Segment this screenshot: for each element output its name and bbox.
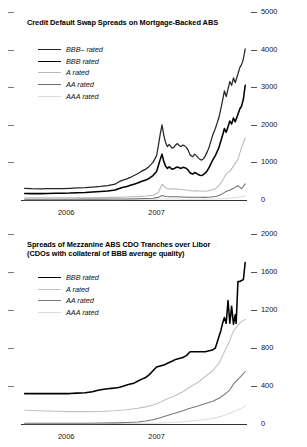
y-tick-label: 2000 — [261, 229, 277, 238]
y-tick-mark-left — [8, 348, 14, 349]
y-tick-label: 3000 — [261, 82, 277, 91]
y-tick-mark-left — [8, 12, 14, 13]
y-tick-label: 1200 — [261, 305, 277, 314]
plot-area-bottom — [21, 234, 247, 425]
y-tick-label: 4000 — [261, 45, 277, 54]
chart-panel-bottom: Spreads of Mezzanine ABS CDO Tranches ov… — [0, 224, 307, 447]
y-tick-label: 0 — [261, 195, 265, 204]
chart-panel-top: Credit Default Swap Spreads on Mortgage-… — [0, 0, 307, 224]
y-tick-mark-right — [251, 87, 257, 88]
series-line-bbbrated — [25, 263, 246, 394]
figure-credit-spreads-panels: Credit Default Swap Spreads on Mortgage-… — [0, 0, 307, 447]
y-tick-label: 800 — [261, 343, 273, 352]
y-tick-mark-right — [251, 12, 257, 13]
y-tick-label: 5000 — [261, 7, 277, 16]
series-line-aarated — [25, 372, 246, 423]
x-tick-label: 2006 — [46, 208, 86, 217]
x-tick-label: 2006 — [46, 432, 86, 441]
y-tick-label: 2000 — [261, 120, 277, 129]
y-tick-mark-left — [8, 310, 14, 311]
series-line-bbbrated — [25, 85, 246, 193]
y-tick-mark-right — [251, 348, 257, 349]
y-tick-label: 0 — [261, 419, 265, 428]
y-tick-mark-left — [8, 234, 14, 235]
y-tick-mark-left — [8, 386, 14, 387]
y-tick-mark-right — [251, 162, 257, 163]
y-tick-label: 1000 — [261, 157, 277, 166]
plot-area-top — [21, 12, 247, 201]
x-tick-label: 2007 — [137, 432, 177, 441]
x-tick-label: 2007 — [137, 208, 177, 217]
y-tick-mark-right — [251, 386, 257, 387]
y-tick-label: 400 — [261, 381, 273, 390]
y-tick-mark-left — [8, 125, 14, 126]
y-tick-mark-left — [8, 162, 14, 163]
y-tick-mark-left — [8, 272, 14, 273]
series-line-bbbrated — [25, 49, 246, 189]
y-tick-mark-right — [251, 272, 257, 273]
y-tick-mark-right — [251, 125, 257, 126]
y-tick-mark-right — [251, 310, 257, 311]
y-tick-mark-right — [251, 234, 257, 235]
y-tick-mark-left — [8, 50, 14, 51]
y-tick-label: 1600 — [261, 267, 277, 276]
y-tick-mark-left — [8, 87, 14, 88]
y-tick-mark-right — [251, 50, 257, 51]
series-line-arated — [25, 320, 246, 412]
